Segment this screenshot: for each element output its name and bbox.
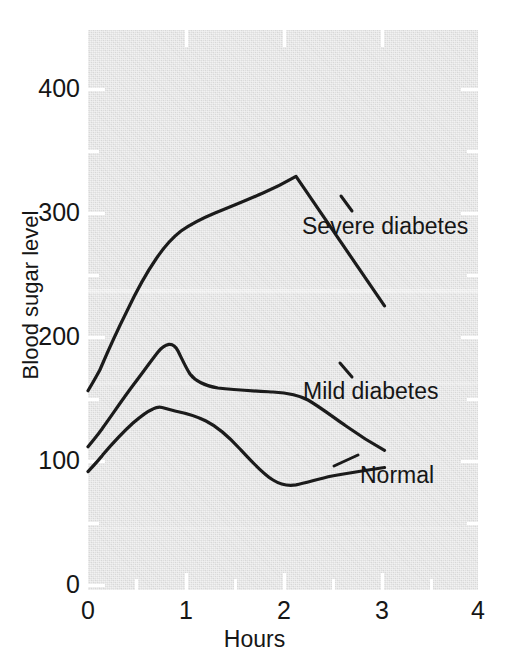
series-normal xyxy=(88,407,385,485)
series-label-normal: Normal xyxy=(360,462,434,489)
series-label-severe-diabetes: Severe diabetes xyxy=(302,213,468,240)
leader-mild xyxy=(340,363,352,377)
chart-figure: 400 300 200 100 0 0 1 2 3 4 Blood sugar … xyxy=(0,0,509,665)
curves-layer xyxy=(0,0,509,665)
series-severe-diabetes xyxy=(88,176,385,390)
series-label-mild-diabetes: Mild diabetes xyxy=(303,378,439,405)
leader-severe xyxy=(341,196,352,211)
leader-normal xyxy=(334,455,358,466)
